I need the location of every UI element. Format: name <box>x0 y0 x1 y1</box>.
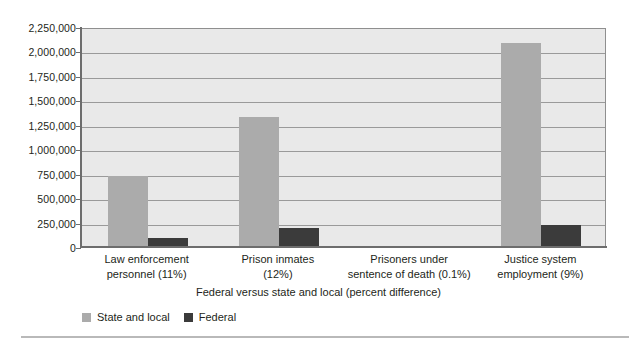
y-axis-tick-label: 500,000 <box>4 193 76 205</box>
x-axis-line <box>80 246 607 248</box>
bar-state-and-local <box>501 43 541 247</box>
y-axis-tick-label: 1,500,000 <box>4 95 76 107</box>
y-axis-tick-label: 1,000,000 <box>4 144 76 156</box>
y-axis-tick-label: 1,250,000 <box>4 120 76 132</box>
plot-area <box>81 28 606 248</box>
x-axis-category-label: Justice systememployment (9%) <box>475 252 606 282</box>
y-axis-line <box>80 27 82 248</box>
bar-federal <box>541 225 581 247</box>
category-label-line: personnel (11%) <box>81 267 212 282</box>
y-axis-tick-label: 0 <box>4 242 76 254</box>
category-label-line: sentence of death (0.1%) <box>344 267 475 282</box>
legend-swatch-icon <box>184 313 193 322</box>
category-label-line: Prisoners under <box>344 252 475 267</box>
category-label-line: employment (9%) <box>475 267 606 282</box>
x-axis-title: Federal versus state and local (percent … <box>0 286 637 298</box>
y-axis-tick-label: 750,000 <box>4 169 76 181</box>
y-axis-tick-mark <box>76 248 81 249</box>
category-label-line: Prison inmates <box>212 252 343 267</box>
y-axis-tick-label: 1,750,000 <box>4 71 76 83</box>
legend-label: Federal <box>199 311 236 323</box>
y-axis-tick-label: 2,250,000 <box>4 22 76 34</box>
bar-federal <box>279 228 319 247</box>
category-label-line: Law enforcement <box>81 252 212 267</box>
bar-state-and-local <box>108 176 148 247</box>
legend-label: State and local <box>97 311 170 323</box>
x-axis-category-label: Prisoners undersentence of death (0.1%) <box>344 252 475 282</box>
x-axis-category-label: Law enforcementpersonnel (11%) <box>81 252 212 282</box>
legend-swatch-icon <box>82 313 91 322</box>
category-label-line: (12%) <box>212 267 343 282</box>
y-axis-tick-label: 250,000 <box>4 218 76 230</box>
bar-state-and-local <box>239 117 279 247</box>
y-axis-tick-label: 2,000,000 <box>4 46 76 58</box>
bottom-divider <box>21 336 629 338</box>
chart-figure: 0250,000500,000750,0001,000,0001,250,000… <box>0 0 637 345</box>
legend-entry: State and local <box>82 311 170 323</box>
legend-entry: Federal <box>184 311 236 323</box>
x-axis-category-label: Prison inmates(12%) <box>212 252 343 282</box>
category-label-line: Justice system <box>475 252 606 267</box>
chart-legend: State and localFederal <box>82 311 236 323</box>
